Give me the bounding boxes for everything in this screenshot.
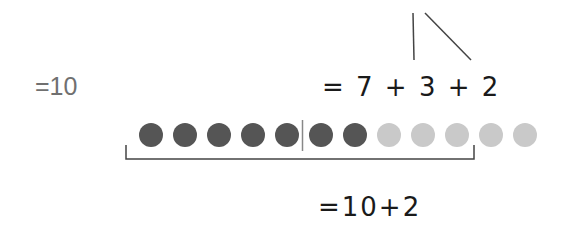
light-dot: [411, 123, 435, 147]
light-dot: [377, 123, 401, 147]
dark-dot: [343, 123, 367, 147]
light-dot: [513, 123, 537, 147]
dark-dot: [241, 123, 265, 147]
dark-dot: [173, 123, 197, 147]
diagram-lines: [0, 0, 571, 227]
dark-dot: [139, 123, 163, 147]
ten-bracket: [126, 145, 474, 159]
dark-dot: [207, 123, 231, 147]
dark-dot: [275, 123, 299, 147]
branch-line-vertical: [413, 13, 414, 60]
light-dot: [479, 123, 503, 147]
dark-dot: [309, 123, 333, 147]
light-dot: [445, 123, 469, 147]
branch-line-diagonal: [425, 13, 471, 60]
